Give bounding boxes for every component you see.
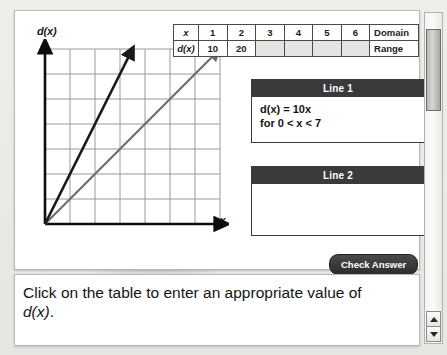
instruction-function-name: d(x) (23, 303, 50, 320)
coordinate-plane (23, 39, 229, 239)
cell-x-5[interactable]: 5 (313, 25, 341, 41)
table-row-dx: d(x) 10 20 Range (174, 41, 419, 57)
cell-x-4[interactable]: 4 (284, 25, 312, 41)
cell-dx-4[interactable] (284, 41, 312, 57)
scrollbar-thumb[interactable] (426, 29, 441, 111)
scroll-up-button[interactable] (426, 311, 441, 327)
cell-dx-label: d(x) (174, 41, 199, 57)
check-answer-button[interactable]: Check Answer (329, 254, 418, 275)
line1-domain: for 0 < x < 7 (260, 116, 416, 130)
cell-x-1[interactable]: 1 (198, 25, 227, 41)
vertical-scrollbar[interactable] (424, 12, 443, 344)
line1-body: d(x) = 10x for 0 < x < 7 (252, 97, 424, 142)
function-table[interactable]: x 1 2 3 4 5 6 Domain d(x) 10 20 Range (173, 24, 419, 57)
cell-x-3[interactable]: 3 (256, 25, 284, 41)
cell-dx-2[interactable]: 20 (227, 41, 256, 57)
cell-dx-6[interactable] (341, 41, 369, 57)
line1-title: Line 1 (252, 80, 424, 97)
instruction-text-part1: Click on the table to enter an appropria… (23, 284, 362, 301)
triangle-down-icon (430, 332, 438, 337)
cell-dx-5[interactable] (313, 41, 341, 57)
activity-panel: d(x) x (14, 10, 420, 270)
instruction-text-part2: . (50, 303, 54, 320)
cell-x-2[interactable]: 2 (227, 25, 256, 41)
cell-dx-1[interactable]: 10 (198, 41, 227, 57)
cell-x-label: x (174, 25, 199, 41)
instruction-panel: Click on the table to enter an appropria… (14, 274, 420, 346)
line2-title: Line 2 (252, 167, 424, 184)
y-axis-label: d(x) (37, 25, 56, 37)
cell-domain-label: Domain (370, 25, 419, 41)
line1-card[interactable]: Line 1 d(x) = 10x for 0 < x < 7 (251, 79, 425, 143)
cell-range-label: Range (370, 41, 419, 57)
graph-area[interactable]: d(x) x (23, 25, 233, 260)
cell-x-6[interactable]: 6 (341, 25, 369, 41)
page-background: d(x) x (0, 0, 447, 355)
scroll-down-button[interactable] (426, 326, 441, 342)
triangle-up-icon (430, 317, 438, 322)
line2-body[interactable] (252, 184, 424, 235)
instruction-text: Click on the table to enter an appropria… (15, 275, 393, 321)
table-row-x: x 1 2 3 4 5 6 Domain (174, 25, 419, 41)
line2-card[interactable]: Line 2 (251, 166, 425, 236)
line1-equation: d(x) = 10x (260, 102, 416, 116)
cell-dx-3[interactable] (256, 41, 284, 57)
